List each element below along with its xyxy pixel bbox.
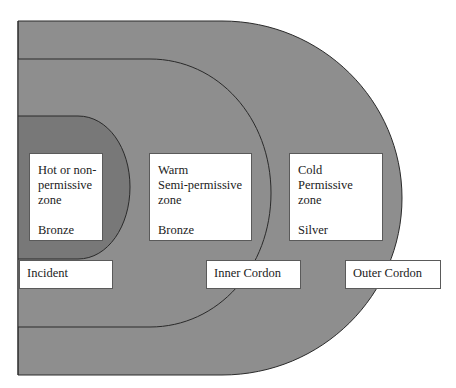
- hot-zone-line-2: permissive: [38, 178, 102, 193]
- hot-zone-line-3: zone: [38, 193, 102, 208]
- hot-zone-command: Bronze: [38, 223, 102, 238]
- warm-zone-line-3: zone: [158, 193, 251, 208]
- hot-zone-box: Hot or non- permissive zone Bronze: [29, 153, 103, 241]
- warm-zone-line-1: Warm: [158, 163, 251, 178]
- cold-zone-command: Silver: [298, 223, 382, 238]
- hot-zone-line-1: Hot or non-: [38, 163, 102, 178]
- cold-zone-line-1: Cold: [298, 163, 382, 178]
- cold-zone-line-2: Permissive: [298, 178, 382, 193]
- cold-zone-box: Cold Permissive zone Silver: [289, 153, 383, 241]
- incident-label: Incident: [19, 260, 113, 289]
- outer-cordon-label: Outer Cordon: [345, 260, 441, 289]
- cold-zone-line-3: zone: [298, 193, 382, 208]
- warm-zone-box: Warm Semi-permissive zone Bronze: [149, 153, 252, 241]
- warm-zone-command: Bronze: [158, 223, 251, 238]
- warm-zone-line-2: Semi-permissive: [158, 178, 251, 193]
- inner-cordon-label: Inner Cordon: [206, 260, 301, 289]
